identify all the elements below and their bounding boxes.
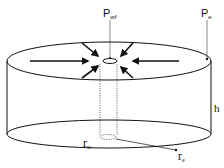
reservoir-diagram: Pwf Pe h rw re bbox=[0, 0, 224, 168]
wellbore-top bbox=[103, 59, 117, 64]
label-h: h bbox=[214, 102, 220, 114]
reservoir-bottom-ellipse bbox=[7, 120, 211, 148]
label-re: re bbox=[178, 149, 185, 163]
label-rw: rw bbox=[83, 136, 92, 150]
label-pe: Pe bbox=[201, 7, 212, 20]
re-radius-line bbox=[116, 139, 176, 150]
wellbore-bottom bbox=[100, 135, 116, 140]
label-pwf: Pwf bbox=[103, 7, 117, 20]
